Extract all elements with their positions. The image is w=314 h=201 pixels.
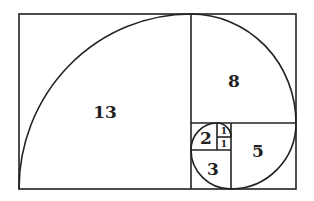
fibonacci-diagram: 13 8 5 3 2 1 1 — [0, 0, 314, 201]
golden-spiral — [19, 14, 296, 189]
square-label-13: 13 — [93, 102, 117, 122]
square-label-1b: 1 — [221, 139, 227, 149]
square-label-5: 5 — [252, 141, 264, 161]
square-label-8: 8 — [228, 71, 240, 91]
square-label-1a: 1 — [221, 126, 227, 136]
square-label-3: 3 — [207, 159, 219, 179]
square-label-2: 2 — [200, 128, 212, 148]
outer-rectangle — [19, 14, 296, 189]
